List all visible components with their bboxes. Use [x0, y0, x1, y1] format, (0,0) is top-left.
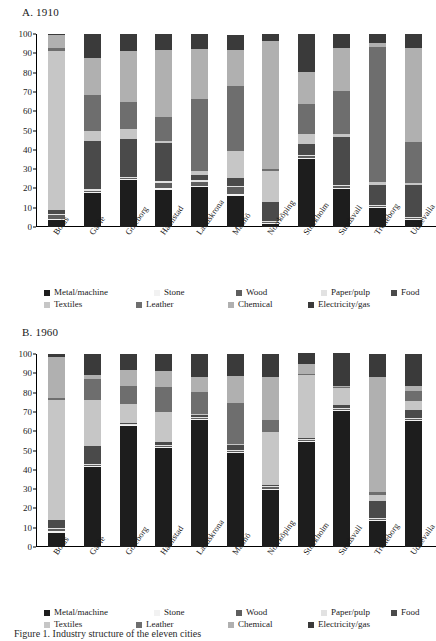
legend-item[interactable]: Stone — [154, 608, 185, 617]
bar-segment — [369, 185, 386, 205]
stacked-bar[interactable] — [227, 354, 244, 547]
stacked-bar[interactable] — [120, 354, 137, 547]
stacked-bar[interactable] — [155, 34, 172, 227]
bar-segment — [48, 51, 65, 209]
bar-segment — [405, 421, 422, 547]
stacked-bar[interactable] — [369, 354, 386, 547]
bar-segment — [120, 423, 137, 424]
bar-segment — [48, 528, 65, 529]
figure-caption: Figure 1. Industry structure of the elev… — [14, 628, 201, 639]
legend-item[interactable]: Food — [391, 608, 420, 617]
legend-item[interactable]: Stone — [154, 288, 185, 297]
bar-segment — [227, 403, 244, 444]
stacked-bar[interactable] — [333, 354, 350, 547]
legend-label: Electricity/gas — [318, 300, 370, 309]
bar-segment — [369, 519, 386, 520]
stacked-bar[interactable] — [48, 34, 65, 227]
bar-segment — [155, 117, 172, 141]
stacked-bar[interactable] — [262, 34, 279, 227]
bar-segment — [405, 420, 422, 421]
y-tick-label: 50 — [6, 126, 36, 136]
legend-swatch-icon — [236, 610, 242, 616]
bar-segment — [405, 418, 422, 419]
stacked-bar[interactable] — [84, 34, 101, 227]
plot-area-1910: 0102030405060708090100 — [36, 34, 428, 227]
y-tick-label: 80 — [6, 68, 36, 78]
stacked-bar[interactable] — [120, 34, 137, 227]
legend-item[interactable]: Metal/machine — [44, 288, 108, 297]
bar-segment — [369, 501, 386, 518]
legend-item[interactable]: Electricity/gas — [308, 300, 370, 309]
bar-segment — [227, 451, 244, 453]
bar-segment — [191, 418, 208, 419]
bar-segment — [84, 95, 101, 131]
legend-swatch-icon — [391, 610, 397, 616]
bar-segment — [155, 447, 172, 448]
stacked-bar[interactable] — [84, 354, 101, 547]
bar-segment — [48, 398, 65, 400]
bar-segment — [298, 134, 315, 144]
y-tick-label: 90 — [6, 368, 36, 378]
legend-item[interactable]: Paper/pulp — [321, 288, 370, 297]
bar-segment — [120, 34, 137, 51]
legend-item[interactable]: Textiles — [44, 300, 82, 309]
bar-segment — [48, 34, 65, 35]
bar-segment — [298, 374, 315, 375]
legend-item[interactable]: Food — [391, 288, 420, 297]
stacked-bar[interactable] — [405, 354, 422, 547]
stacked-bar[interactable] — [155, 354, 172, 547]
bar-segment — [84, 141, 101, 189]
legend-row-2: TextilesLeatherChemicalElectricity/gas — [36, 299, 428, 311]
bar-segment — [405, 391, 422, 402]
chart-panel-1960: B. 1960 0102030405060708090100 BoråsGävl… — [0, 320, 435, 640]
bar-segment — [120, 129, 137, 140]
bar-segment — [191, 182, 208, 186]
legend-label: Metal/machine — [54, 288, 108, 297]
legend-item[interactable]: Metal/machine — [44, 608, 108, 617]
legend-item[interactable]: Wood — [236, 608, 267, 617]
stacked-bar[interactable] — [333, 34, 350, 227]
legend-item[interactable]: Chemical — [228, 300, 273, 309]
legend-item[interactable]: Chemical — [228, 620, 273, 629]
y-tick-label: 70 — [6, 407, 36, 417]
bar-segment — [333, 408, 350, 409]
bar-segment — [48, 210, 65, 214]
stacked-bar[interactable] — [191, 354, 208, 547]
legend-item[interactable]: Electricity/gas — [308, 620, 370, 629]
stacked-bar[interactable] — [262, 354, 279, 547]
y-tick-label: 30 — [6, 484, 36, 494]
y-tick-label: 70 — [6, 87, 36, 97]
chart-title-1910: A. 1910 — [22, 6, 59, 18]
bar-segment — [369, 207, 386, 208]
stacked-bar[interactable] — [405, 34, 422, 227]
stacked-bar[interactable] — [298, 34, 315, 227]
bar-segment — [120, 370, 137, 385]
stacked-bar[interactable] — [48, 354, 65, 547]
legend-label: Leather — [146, 300, 173, 309]
bar-segment — [120, 177, 137, 178]
bar-segment — [84, 354, 101, 375]
legend-item[interactable]: Paper/pulp — [321, 608, 370, 617]
bar-segment — [84, 446, 101, 464]
legend-label: Food — [401, 288, 420, 297]
bar-segment — [155, 188, 172, 190]
legend-swatch-icon — [44, 302, 50, 308]
legend-swatch-icon — [228, 302, 234, 308]
bar-segment — [227, 86, 244, 151]
bar-segment — [262, 487, 279, 489]
bar-segment — [298, 439, 315, 440]
bar-segment — [227, 194, 244, 196]
bar-segment — [191, 414, 208, 415]
stacked-bar[interactable] — [298, 354, 315, 547]
bar-segment — [405, 34, 422, 48]
legend-item[interactable]: Leather — [136, 300, 173, 309]
legend-item[interactable]: Wood — [236, 288, 267, 297]
bar-segment — [84, 131, 101, 142]
bar-segment — [155, 143, 172, 181]
stacked-bar[interactable] — [227, 34, 244, 227]
stacked-bar[interactable] — [369, 34, 386, 227]
bar-segment — [262, 34, 279, 41]
stacked-bar[interactable] — [191, 34, 208, 227]
bar-segment — [298, 34, 315, 72]
bar-segment — [333, 387, 350, 388]
